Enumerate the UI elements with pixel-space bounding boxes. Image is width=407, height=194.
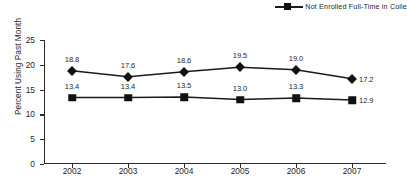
y-axis-tick: 0 [40,164,44,165]
y-axis-tick-label: 15 [26,85,35,95]
square-marker-icon [180,93,188,101]
legend-item-label: Not Enrolled Full-Time in Colle [303,2,407,11]
data-point-value-label: 18.6 [177,56,191,65]
chart-legend: Not Enrolled Full-Time in Colle [275,2,407,11]
plot-area: 0510152025 200220032004200520062007 18.8… [44,40,386,164]
x-axis-tick-label: 2005 [231,166,250,176]
legend-line-swatch [275,2,303,11]
series-line-upper [72,67,352,78]
data-point-value-label: 12.9 [359,96,373,105]
data-point-value-label: 19.5 [233,51,247,60]
data-point-value-label: 19.0 [289,54,303,63]
square-marker-icon [292,94,300,102]
y-axis-tick-label: 10 [26,109,35,119]
line-chart: Not Enrolled Full-Time in Colle Percent … [0,0,407,194]
square-marker-icon [124,94,132,102]
square-marker-icon [68,94,76,102]
data-point-value-label: 18.8 [65,55,79,64]
data-point-value-label: 17.6 [121,61,135,70]
data-point-value-label: 13.3 [289,82,303,91]
data-point-value-label: 13.4 [65,82,79,91]
square-marker-icon [348,96,356,104]
square-marker-icon [236,96,244,104]
series-lines [44,40,386,164]
y-axis-tick-label: 5 [30,134,35,144]
y-axis-tick-label: 25 [26,35,35,45]
x-axis-tick-label: 2004 [175,166,194,176]
data-point-value-label: 13.4 [121,82,135,91]
data-point-value-label: 17.2 [359,74,373,83]
data-point-value-label: 13.5 [177,81,191,90]
y-axis-tick-label: 20 [26,60,35,70]
x-axis-tick-label: 2003 [119,166,138,176]
series-line-lower [72,97,352,100]
y-axis-tick-label: 0 [30,159,35,169]
y-axis-title: Percent Using Past Month [14,7,23,127]
x-axis-tick-label: 2007 [343,166,362,176]
square-marker-icon [284,3,291,10]
x-axis-tick-label: 2006 [287,166,306,176]
data-point-value-label: 13.0 [233,84,247,93]
x-axis-tick-label: 2002 [63,166,82,176]
